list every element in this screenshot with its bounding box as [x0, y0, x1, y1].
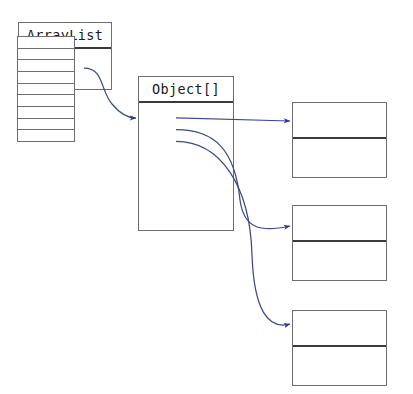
array-cell[interactable] — [18, 72, 74, 84]
array-cell[interactable] — [18, 49, 74, 61]
array-cell[interactable] — [18, 130, 74, 141]
array-cell-list — [17, 36, 75, 142]
element-box-title — [293, 103, 386, 139]
array-cell[interactable] — [18, 37, 74, 49]
element-box-body — [293, 242, 386, 280]
array-cell[interactable] — [18, 119, 74, 131]
element-box[interactable] — [292, 205, 387, 281]
element-box-title — [293, 206, 386, 242]
object-array-body — [139, 103, 233, 230]
element-box[interactable] — [292, 102, 387, 178]
array-cell[interactable] — [18, 60, 74, 72]
array-cell[interactable] — [18, 84, 74, 96]
element-box-title — [293, 311, 386, 347]
element-box-body — [293, 139, 386, 177]
object-array-box[interactable]: Object[] — [138, 76, 234, 231]
object-array-title: Object[] — [139, 77, 233, 103]
element-box[interactable] — [292, 310, 387, 386]
array-cell[interactable] — [18, 107, 74, 119]
object-reference-diagram: ArrayList Object[] — [0, 0, 413, 394]
element-box-body — [293, 347, 386, 385]
array-cell[interactable] — [18, 95, 74, 107]
